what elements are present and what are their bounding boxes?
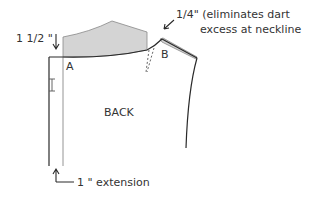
dart-dashed-right — [147, 48, 154, 72]
extension-arrow-icon — [53, 169, 74, 182]
shaded-yoke — [63, 21, 147, 57]
annotation-line-1: 1/4" (eliminates dart — [176, 9, 290, 20]
point-b-label: B — [161, 49, 169, 60]
annotation-arrow-icon — [164, 20, 174, 29]
annotation-line-2: excess at neckline — [200, 24, 301, 35]
piece-name-label: BACK — [104, 107, 134, 118]
point-a-label: A — [66, 61, 74, 72]
extension-label: 1 " extension — [77, 177, 150, 188]
armhole-curve — [186, 58, 197, 148]
arrow-down-icon — [53, 34, 59, 49]
measurement-label: 1 1/2 " — [16, 33, 53, 44]
notch-marks — [49, 79, 55, 91]
